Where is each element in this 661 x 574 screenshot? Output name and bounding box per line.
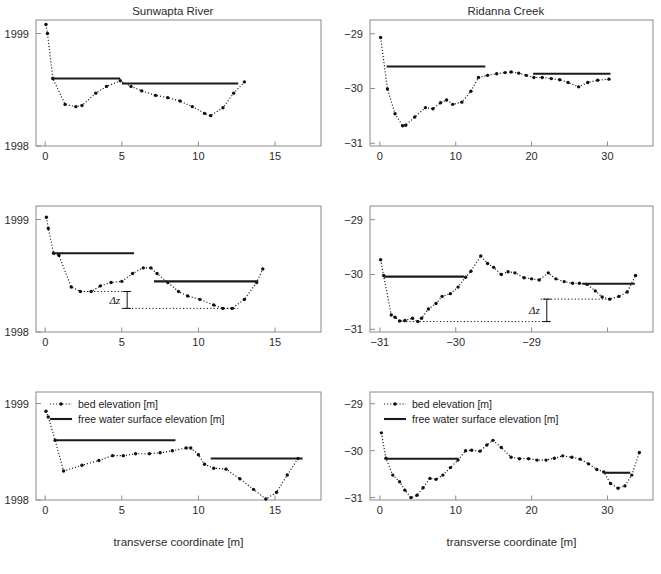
bed-elevation-point (47, 227, 50, 230)
bed-elevation-point (626, 290, 629, 293)
bed-elevation-point (470, 449, 473, 452)
bed-elevation-point (142, 266, 145, 269)
x-tick-label: 5 (119, 150, 125, 162)
y-tick-label: 1999 (5, 28, 29, 40)
bed-elevation-point (403, 319, 406, 322)
bed-elevation-point (177, 290, 180, 293)
x-tick-label: 10 (450, 504, 462, 516)
bed-elevation-point (577, 85, 580, 88)
bed-elevation-point (252, 488, 255, 491)
bed-elevation-point (495, 72, 498, 75)
bed-elevation-line (381, 256, 636, 322)
bed-elevation-point (415, 494, 418, 497)
y-tick-label: −31 (344, 137, 363, 149)
bed-elevation-point (403, 488, 406, 491)
y-tick-label: −30 (344, 268, 363, 280)
x-tick-label: −30 (446, 336, 465, 348)
bed-elevation-point (70, 285, 73, 288)
bed-elevation-point (221, 307, 224, 310)
bed-elevation-point (541, 76, 544, 79)
x-tick-label: 10 (192, 336, 204, 348)
bed-elevation-point (428, 477, 431, 480)
bed-elevation-point (411, 317, 414, 320)
bed-elevation-point (600, 295, 603, 298)
bed-elevation-point (617, 295, 620, 298)
bed-elevation-point (243, 298, 246, 301)
chart-top-left: 05101519981999Sunwapta River (0, 0, 331, 186)
bed-elevation-point (518, 457, 521, 460)
bed-elevation-point (451, 103, 454, 106)
bed-elevation-point (440, 295, 443, 298)
bed-elevation-point (171, 449, 174, 452)
bed-elevation-point (439, 101, 442, 104)
bed-elevation-point (232, 91, 235, 94)
bed-elevation-point (634, 274, 637, 277)
bed-elevation-point (595, 468, 598, 471)
bed-elevation-point (178, 99, 181, 102)
chart-middle-left: 05101519981999Δz (0, 186, 331, 372)
bed-elevation-point (525, 74, 528, 77)
legend-bed-marker (393, 402, 397, 406)
bed-elevation-point (393, 316, 396, 319)
bed-elevation-point (544, 458, 547, 461)
bed-elevation-point (449, 292, 452, 295)
bed-elevation-point (379, 36, 382, 39)
bed-elevation-point (155, 272, 158, 275)
bed-elevation-point (416, 320, 419, 323)
bed-elevation-point (492, 266, 495, 269)
bed-elevation-line (381, 38, 609, 126)
bed-elevation-point (506, 270, 509, 273)
x-tick-label: 10 (450, 150, 462, 162)
bed-elevation-point (230, 307, 233, 310)
bed-elevation-point (47, 415, 50, 418)
bed-elevation-point (578, 282, 581, 285)
bed-elevation-point (191, 105, 194, 108)
chart-bottom-right: 0102030−31−30−29bed elevation [m]free wa… (332, 372, 661, 558)
bed-elevation-point (154, 94, 157, 97)
bed-elevation-point (80, 464, 83, 467)
bed-elevation-point (63, 103, 66, 106)
x-tick-label: 15 (269, 504, 281, 516)
bed-elevation-point (398, 480, 401, 483)
bed-elevation-point (129, 85, 132, 88)
x-tick-label: 10 (192, 504, 204, 516)
legend-water-label: free water surface elevation [m] (78, 413, 225, 425)
x-tick-label: 10 (192, 150, 204, 162)
bed-elevation-point (608, 297, 611, 300)
bed-elevation-point (398, 319, 401, 322)
figure-river-cross-sections: 05101519981999Sunwapta River 0102030−31−… (0, 0, 661, 574)
bed-elevation-point (547, 271, 550, 274)
bed-elevation-point (386, 87, 389, 90)
chart-middle-right: −31−30−29−31−30−29Δz (332, 186, 661, 372)
bed-elevation-point (477, 76, 480, 79)
bed-elevation-point (149, 266, 152, 269)
x-axis-label: transverse coordinate [m] (114, 536, 244, 548)
panel-title: Ridanna Creek (467, 5, 544, 17)
bed-elevation-point (485, 443, 488, 446)
deltaz-label: Δz (528, 304, 540, 316)
plot-frame (370, 20, 653, 146)
bed-elevation-point (131, 272, 134, 275)
x-tick-label: −31 (371, 336, 390, 348)
bed-elevation-point (120, 280, 123, 283)
x-tick-label: 0 (377, 150, 383, 162)
bed-elevation-point (460, 100, 463, 103)
x-tick-label: −29 (522, 336, 541, 348)
bed-elevation-point (566, 81, 569, 84)
bed-elevation-point (527, 457, 530, 460)
bed-elevation-point (532, 76, 535, 79)
bed-elevation-point (638, 451, 641, 454)
deltaz-label: Δz (108, 294, 120, 306)
bed-elevation-point (434, 302, 437, 305)
bed-elevation-point (486, 262, 489, 265)
panel-bottom-right: 0102030−31−30−29bed elevation [m]free wa… (332, 372, 661, 558)
bed-elevation-point (184, 446, 187, 449)
bed-elevation-point (563, 280, 566, 283)
x-tick-label: 0 (377, 504, 383, 516)
y-tick-label: −29 (344, 28, 363, 40)
bed-elevation-point (530, 277, 533, 280)
panel-middle-left: 05101519981999Δz (0, 186, 331, 372)
bed-elevation-point (616, 487, 619, 490)
y-tick-label: −30 (344, 82, 363, 94)
bed-elevation-point (74, 105, 77, 108)
